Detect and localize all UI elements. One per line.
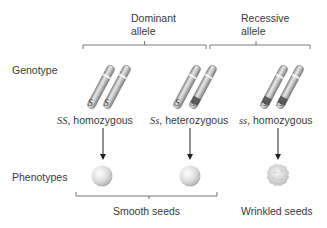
dominant-allele-header: Dominant allele (131, 12, 176, 38)
header-line: allele (131, 25, 176, 38)
genotype-code: Ss (150, 115, 159, 126)
dominant-bracket (83, 41, 206, 49)
header-line: Dominant (131, 12, 176, 25)
genotype-code: ss (239, 115, 247, 126)
arrows (103, 128, 278, 157)
smooth-seeds-bracket (76, 192, 217, 199)
allele-letter: s (279, 98, 283, 108)
allele-letter: s (191, 98, 195, 108)
allele-letter: S (175, 98, 180, 108)
smooth-seeds-label: Smooth seeds (113, 205, 180, 217)
smooth-seed-SS (92, 166, 113, 187)
header-line: Recessive (241, 12, 289, 25)
header-line: allele (241, 25, 289, 38)
genotype-desc: , heterozygous (159, 114, 228, 126)
allele-letter: s (263, 98, 267, 108)
genotype-label-Ss: Ss, heterozygous (150, 114, 228, 126)
wrinkled-seeds-label: Wrinkled seeds (241, 205, 313, 217)
wrinkled-seed-ss (267, 164, 289, 186)
genotype-row-label: Genotype (12, 64, 58, 76)
recessive-bracket (210, 41, 310, 49)
phenotypes-row-label: Phenotypes (12, 171, 67, 183)
genotype-label-SS: SS, homozygous (57, 114, 133, 126)
genotype-desc: , homozygous (68, 114, 133, 126)
smooth-seed-Ss (180, 166, 201, 187)
genotype-label-ss: ss, homozygous (239, 114, 313, 126)
allele-letter: S (104, 98, 109, 108)
genotype-code: SS (57, 115, 68, 126)
genotype-desc: , homozygous (247, 114, 312, 126)
allele-letter: S (88, 98, 93, 108)
recessive-allele-header: Recessive allele (241, 12, 289, 38)
